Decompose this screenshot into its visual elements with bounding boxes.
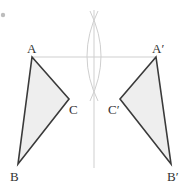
triangle-a-prime-b-prime-c-prime [120, 57, 171, 164]
label-a: A [27, 41, 37, 56]
compass-arc-left [87, 11, 98, 101]
label-c: C [69, 102, 78, 117]
label-b-prime: B′ [167, 169, 179, 184]
label-a-prime: A′ [152, 41, 164, 56]
reflection-diagram: A C B A′ C′ B′ [0, 0, 185, 186]
corner-dot [1, 13, 5, 17]
triangle-abc [18, 57, 69, 164]
label-c-prime: C′ [108, 102, 120, 117]
compass-arc-right [90, 11, 101, 101]
label-b: B [10, 169, 19, 184]
